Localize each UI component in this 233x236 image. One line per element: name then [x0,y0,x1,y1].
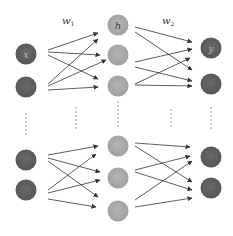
hidden-node [108,76,129,97]
output-node [201,178,222,199]
w1-label: w1 [62,15,74,27]
input-node [16,77,37,98]
input-node [16,180,37,201]
hidden-node [108,136,129,157]
output-node-label: y [207,44,214,54]
arrows-hidden-to-output-top [135,27,192,86]
ellipsis-input-layer [25,113,27,135]
input-node [16,150,37,171]
hidden-node-label: h [115,20,121,31]
hidden-node [108,201,129,222]
output-node [201,147,222,168]
w2-label: w2 [162,15,175,27]
ellipsis-w1 [75,107,77,129]
ellipsis-hidden-layer [117,101,119,127]
hidden-node [108,168,129,189]
input-node-label: x [23,50,28,60]
output-node [201,74,222,95]
output-layer: y [201,38,222,199]
arrows-input-to-hidden-top [48,33,106,90]
arrows-input-to-hidden-bottom [48,146,100,207]
arrows-hidden-to-output-bottom [135,143,192,207]
ellipsis-output-layer [210,107,212,129]
ellipsis-w2 [170,109,172,127]
hidden-node [108,45,129,66]
neural-network-diagram: w1 w2 [0,0,233,236]
